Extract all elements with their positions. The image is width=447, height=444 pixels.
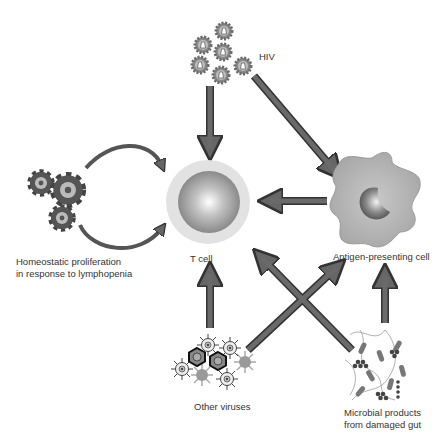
microbial-products-icon bbox=[345, 330, 406, 400]
hiv-label: HIV bbox=[259, 51, 275, 63]
cycle-arrows bbox=[80, 146, 162, 248]
t-cell-icon bbox=[166, 160, 250, 244]
homeostatic-label-line1: Homeostatic proliferation bbox=[16, 256, 121, 268]
other-viruses-label: Other viruses bbox=[194, 401, 251, 413]
diagram-canvas: HIV Homeostatic proliferation in respons… bbox=[0, 0, 447, 444]
microbial-label-line2: from damaged gut bbox=[344, 419, 421, 431]
apc-label: Antigen-presenting cell bbox=[333, 251, 430, 263]
antigen-presenting-cell-icon bbox=[330, 152, 420, 246]
diagram-graphics bbox=[0, 0, 447, 444]
hiv-virus-icon bbox=[192, 23, 251, 83]
gears-icon bbox=[30, 172, 83, 229]
other-viruses-icon bbox=[171, 334, 256, 390]
t-cell-label: T cell bbox=[190, 253, 213, 265]
microbial-label-line1: Microbial products bbox=[344, 407, 421, 419]
homeostatic-label-line2: in response to lymphopenia bbox=[16, 268, 132, 280]
